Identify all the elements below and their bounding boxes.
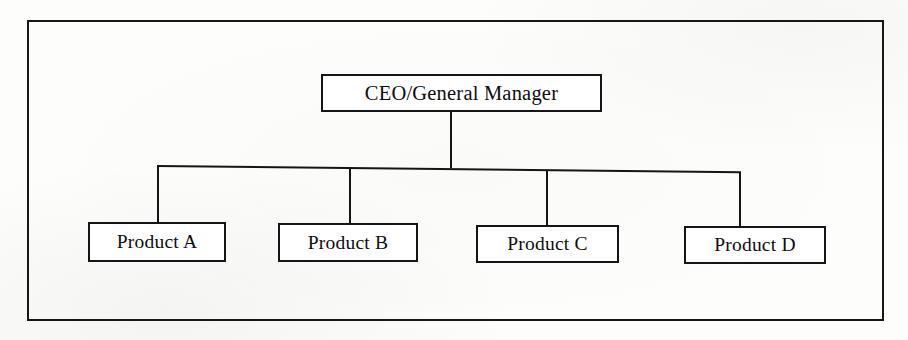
- connector-root-drop: [450, 112, 452, 168]
- org-node-product-b-label: Product B: [308, 232, 388, 254]
- org-node-product-d-label: Product D: [714, 234, 795, 256]
- org-node-product-d[interactable]: Product D: [684, 226, 826, 264]
- org-node-product-a[interactable]: Product A: [88, 222, 226, 262]
- org-chart-screenshot: CEO/General Manager Product A Product B …: [0, 0, 908, 340]
- connector-leg-product-d: [739, 172, 741, 226]
- org-node-product-c-label: Product C: [507, 233, 587, 255]
- org-node-product-b[interactable]: Product B: [278, 223, 418, 262]
- connector-leg-product-a: [157, 166, 159, 222]
- org-node-product-a-label: Product A: [117, 231, 197, 253]
- org-node-ceo[interactable]: CEO/General Manager: [321, 74, 602, 112]
- org-node-product-c[interactable]: Product C: [476, 225, 619, 263]
- connector-leg-product-c: [546, 170, 548, 225]
- org-node-ceo-label: CEO/General Manager: [365, 82, 558, 105]
- connector-leg-product-b: [349, 168, 351, 223]
